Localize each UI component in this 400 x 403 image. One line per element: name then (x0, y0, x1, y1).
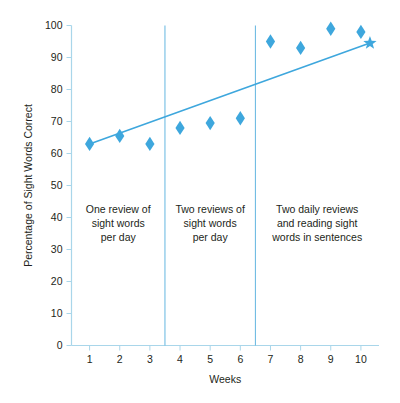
data-point-diamond (296, 41, 305, 55)
phase-label-line: words in sentences (271, 231, 362, 243)
y-tick-label: 20 (51, 275, 63, 287)
data-point-diamond (206, 116, 215, 130)
x-tick-label: 4 (177, 353, 183, 365)
y-tick-label: 100 (45, 19, 63, 31)
data-point-diamond (175, 121, 184, 135)
y-tick-label: 60 (51, 147, 63, 159)
y-axis-title: Percentage of Sight Words Correct (22, 104, 34, 267)
y-tick-label: 90 (51, 51, 63, 63)
phase-label-line: and reading sight (277, 217, 358, 229)
x-tick-label: 9 (328, 353, 334, 365)
phase-label-line: sight words (184, 217, 237, 229)
y-tick-label: 40 (51, 211, 63, 223)
sight-words-chart: 010203040506070809010012345678910One rev… (0, 0, 400, 403)
data-point-diamond (326, 22, 335, 36)
y-tick-label: 10 (51, 307, 63, 319)
data-point-diamond (236, 111, 245, 125)
chart-canvas: 010203040506070809010012345678910One rev… (0, 0, 400, 403)
x-tick-label: 1 (87, 353, 93, 365)
trend-endpoint-star (363, 36, 376, 49)
data-point-diamond (266, 34, 275, 48)
x-tick-label: 10 (355, 353, 367, 365)
x-axis-title: Weeks (209, 373, 241, 385)
data-point-diamond (115, 129, 124, 143)
x-tick-label: 5 (207, 353, 213, 365)
data-point-diamond (356, 25, 365, 39)
trend-line (90, 43, 370, 144)
data-point-diamond (145, 137, 154, 151)
y-tick-label: 0 (57, 339, 63, 351)
x-tick-label: 6 (237, 353, 243, 365)
phase-label-line: sight words (92, 217, 145, 229)
phase-label-line: per day (193, 231, 229, 243)
x-tick-label: 2 (117, 353, 123, 365)
x-tick-label: 3 (147, 353, 153, 365)
x-tick-label: 7 (268, 353, 274, 365)
phase-label-line: One review of (86, 203, 151, 215)
y-tick-label: 50 (51, 179, 63, 191)
y-tick-label: 30 (51, 243, 63, 255)
y-tick-label: 80 (51, 83, 63, 95)
phase-label-line: Two reviews of (175, 203, 245, 215)
y-tick-label: 70 (51, 115, 63, 127)
phase-label-line: Two daily reviews (276, 203, 358, 215)
data-point-diamond (85, 137, 94, 151)
x-tick-label: 8 (298, 353, 304, 365)
phase-label-line: per day (101, 231, 137, 243)
